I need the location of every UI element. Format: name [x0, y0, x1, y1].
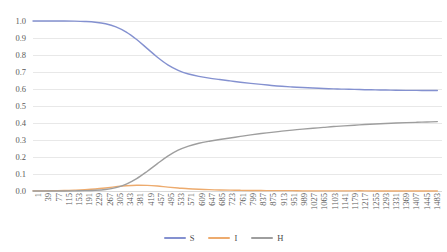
legend-item-h[interactable]: H: [251, 234, 283, 243]
y-axis-tick-label: 0.8: [15, 51, 26, 60]
x-axis-tick-label: 1445: [423, 193, 432, 210]
x-axis-tick-label: 1217: [361, 193, 370, 210]
legend-label: S: [190, 234, 195, 243]
y-axis: 0.00.10.20.30.40.50.60.70.80.91.0: [0, 0, 30, 200]
x-axis-tick-label: 837: [259, 193, 268, 206]
x-axis-tick-label: 77: [55, 193, 64, 202]
x-axis-tick-label: 685: [218, 193, 227, 206]
x-axis-tick-label: 609: [198, 193, 207, 206]
x-axis: 1397711515319122926730534338141945749553…: [33, 193, 442, 227]
legend-item-s[interactable]: S: [164, 234, 195, 243]
x-axis-tick-label: 1141: [341, 193, 350, 210]
x-axis-tick-label: 799: [249, 193, 258, 206]
x-axis-tick-label: 989: [300, 193, 309, 206]
x-axis-tick-label: 951: [290, 193, 299, 206]
y-axis-tick-label: 0.3: [15, 136, 26, 145]
x-axis-tick-label: 39: [44, 193, 53, 202]
line-chart: 0.00.10.20.30.40.50.60.70.80.91.0 139771…: [0, 0, 447, 252]
x-axis-tick-label: 1293: [382, 193, 391, 210]
y-axis-tick-label: 0.5: [15, 102, 26, 111]
x-axis-tick-label: 1369: [402, 193, 411, 210]
y-axis-tick-label: 0.9: [15, 34, 26, 43]
series-line-s: [33, 21, 437, 91]
y-axis-tick-label: 0.4: [15, 119, 26, 128]
x-axis-tick-label: 191: [85, 193, 94, 206]
x-axis-tick-label: 875: [269, 193, 278, 206]
x-axis-tick-label: 647: [208, 193, 217, 206]
series-lines: [33, 21, 442, 191]
x-axis-tick-label: 153: [75, 193, 84, 206]
x-axis-tick-label: 1407: [412, 193, 421, 210]
x-axis-tick-label: 305: [116, 193, 125, 206]
x-axis-tick-label: 1483: [433, 193, 442, 210]
x-axis-tick-label: 1255: [372, 193, 381, 210]
legend-label: I: [234, 234, 237, 243]
legend-item-i[interactable]: I: [208, 234, 237, 243]
x-axis-tick-label: 419: [147, 193, 156, 206]
legend-label: H: [277, 234, 283, 243]
x-axis-tick-label: 761: [239, 193, 248, 206]
series-line-h: [33, 122, 437, 191]
y-axis-tick-label: 1.0: [15, 17, 26, 26]
x-axis-tick-label: 1065: [320, 193, 329, 210]
y-axis-tick-label: 0.2: [15, 153, 26, 162]
legend-swatch-icon: [164, 237, 186, 239]
x-axis-tick-label: 1179: [351, 193, 360, 210]
x-axis-tick-label: 1: [34, 193, 43, 197]
y-axis-tick-label: 0.6: [15, 85, 26, 94]
x-axis-tick-label: 267: [106, 193, 115, 206]
x-axis-tick-label: 913: [280, 193, 289, 206]
y-axis-tick-label: 0.7: [15, 68, 26, 77]
x-axis-tick-label: 1027: [310, 193, 319, 210]
x-axis-tick-label: 1103: [331, 193, 340, 210]
x-axis-tick-label: 343: [126, 193, 135, 206]
x-axis-tick-label: 381: [136, 193, 145, 206]
y-axis-tick-label: 0.0: [15, 187, 26, 196]
y-axis-tick-label: 0.1: [15, 170, 26, 179]
x-axis-tick-label: 723: [228, 193, 237, 206]
chart-legend: SIH: [0, 230, 447, 246]
x-axis-tick-label: 229: [95, 193, 104, 206]
x-axis-tick-label: 495: [167, 193, 176, 206]
x-axis-tick-label: 533: [177, 193, 186, 206]
x-axis-tick-label: 115: [65, 193, 74, 205]
plot-area: [33, 21, 442, 191]
legend-swatch-icon: [208, 237, 230, 239]
legend-swatch-icon: [251, 237, 273, 239]
x-axis-tick-label: 1331: [392, 193, 401, 210]
x-axis-tick-label: 457: [157, 193, 166, 206]
x-axis-tick-label: 571: [187, 193, 196, 206]
